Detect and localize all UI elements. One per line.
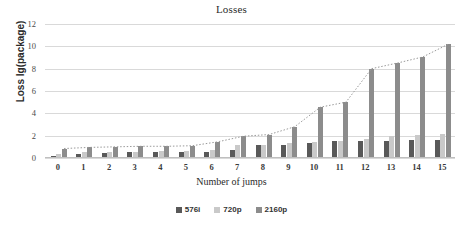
y-axis-tick-label: 10 bbox=[28, 41, 37, 51]
bar-group bbox=[51, 24, 68, 158]
legend-swatch-icon bbox=[214, 207, 220, 213]
x-axis-tick-label: 12 bbox=[361, 162, 370, 172]
bar-576i bbox=[332, 141, 337, 158]
bar-group bbox=[332, 24, 349, 158]
bar-group bbox=[384, 24, 401, 158]
x-axis-tick-label: 11 bbox=[336, 162, 344, 172]
y-axis-tick-label: 2 bbox=[32, 131, 36, 141]
x-axis-tick-label: 10 bbox=[310, 162, 319, 172]
bar-group bbox=[179, 24, 196, 158]
bar-2160p bbox=[215, 142, 220, 158]
bar-720p bbox=[312, 142, 317, 158]
bar-group bbox=[281, 24, 298, 158]
legend-item[interactable]: 720p bbox=[214, 205, 241, 214]
bar-576i bbox=[307, 143, 312, 158]
x-axis-title: Number of jumps bbox=[0, 176, 463, 187]
bar-2160p bbox=[343, 102, 348, 158]
x-axis-tick-label: 6 bbox=[209, 162, 213, 172]
bar-group bbox=[307, 24, 324, 158]
x-axis-tick-label: 13 bbox=[387, 162, 396, 172]
x-axis-tick-label: 3 bbox=[133, 162, 137, 172]
x-axis-tick-label: 1 bbox=[81, 162, 85, 172]
bar-2160p bbox=[369, 69, 374, 158]
x-axis-tick-label: 8 bbox=[261, 162, 265, 172]
x-axis-tick-label: 15 bbox=[438, 162, 447, 172]
bar-group bbox=[102, 24, 119, 158]
chart-legend: 576i720p2160p bbox=[0, 205, 463, 214]
y-axis-tick-label: 8 bbox=[32, 64, 36, 74]
y-axis-title: Loss lg(package) bbox=[15, 2, 26, 122]
x-axis-tick-label: 4 bbox=[158, 162, 162, 172]
plot-area bbox=[45, 24, 455, 158]
bar-2160p bbox=[395, 63, 400, 158]
bar-2160p bbox=[446, 44, 451, 158]
bar-group bbox=[358, 24, 375, 158]
chart-title: Losses bbox=[0, 3, 463, 15]
bar-group bbox=[153, 24, 170, 158]
bar-group bbox=[230, 24, 247, 158]
bar-2160p bbox=[318, 107, 323, 158]
bar-720p bbox=[389, 136, 394, 158]
legend-item[interactable]: 2160p bbox=[256, 205, 288, 214]
y-axis-tick-label: 12 bbox=[28, 19, 37, 29]
bar-group bbox=[256, 24, 273, 158]
bar-2160p bbox=[420, 57, 425, 158]
bar-group bbox=[76, 24, 93, 158]
chart-container: Losses 024681012 Loss lg(package) 012345… bbox=[0, 0, 463, 234]
legend-swatch-icon bbox=[256, 207, 262, 213]
legend-item[interactable]: 576i bbox=[176, 205, 201, 214]
x-axis-tick-label: 9 bbox=[286, 162, 290, 172]
bar-720p bbox=[287, 143, 292, 158]
legend-label: 720p bbox=[223, 205, 241, 214]
x-axis-line bbox=[45, 157, 455, 158]
legend-label: 2160p bbox=[265, 205, 288, 214]
y-axis-tick-label: 4 bbox=[32, 108, 36, 118]
y-axis-tick-label: 0 bbox=[32, 153, 36, 163]
bar-group bbox=[127, 24, 144, 158]
bar-2160p bbox=[241, 136, 246, 158]
bar-720p bbox=[440, 134, 445, 158]
bar-2160p bbox=[292, 127, 297, 158]
y-axis-tick-label: 6 bbox=[32, 86, 36, 96]
bar-576i bbox=[281, 145, 286, 158]
x-axis-tick-label: 7 bbox=[235, 162, 239, 172]
legend-swatch-icon bbox=[176, 207, 182, 213]
bar-group bbox=[409, 24, 426, 158]
x-axis-tick-label: 14 bbox=[412, 162, 421, 172]
x-axis-tick-label: 0 bbox=[56, 162, 60, 172]
bar-576i bbox=[409, 140, 414, 158]
gridline bbox=[45, 158, 455, 159]
bar-2160p bbox=[267, 135, 272, 158]
x-axis-tick-label: 2 bbox=[107, 162, 111, 172]
bar-group bbox=[204, 24, 221, 158]
bar-720p bbox=[338, 141, 343, 158]
bar-576i bbox=[384, 141, 389, 158]
x-axis-tick-label: 5 bbox=[184, 162, 188, 172]
legend-label: 576i bbox=[185, 205, 201, 214]
bar-720p bbox=[364, 139, 369, 158]
x-axis-tick-labels: 0123456789101112131415 bbox=[45, 160, 455, 174]
bar-720p bbox=[415, 135, 420, 158]
bar-576i bbox=[435, 140, 440, 158]
bar-720p bbox=[261, 145, 266, 158]
bar-576i bbox=[358, 141, 363, 158]
bar-group bbox=[435, 24, 452, 158]
